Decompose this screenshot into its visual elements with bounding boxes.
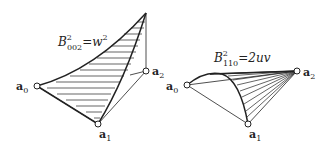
right-label-a1: a1 bbox=[249, 128, 261, 143]
right-fan-lines bbox=[210, 71, 297, 117]
bernstein-basis-diagram: a0 a1 a2 B2002=w2 bbox=[0, 0, 334, 148]
right-vertex-a2 bbox=[294, 68, 300, 74]
left-label-a2: a2 bbox=[152, 65, 164, 80]
right-vertex-a1 bbox=[245, 121, 251, 127]
right-label-a0: a0 bbox=[166, 80, 178, 95]
right-vertex-a0 bbox=[184, 82, 190, 88]
left-surface-outline bbox=[37, 13, 146, 124]
left-vertex-a0 bbox=[34, 83, 40, 89]
right-figure: a0 a1 a2 B2110=2uv bbox=[166, 49, 315, 143]
left-vertex-a1 bbox=[95, 121, 101, 127]
left-formula: B2002=w2 bbox=[57, 33, 108, 52]
left-figure: a0 a1 a2 B2002=w2 bbox=[16, 13, 164, 143]
right-label-a2: a2 bbox=[303, 66, 315, 81]
left-vertex-a2 bbox=[143, 68, 149, 74]
right-formula: B2110=2uv bbox=[213, 49, 271, 68]
left-label-a1: a1 bbox=[99, 128, 111, 143]
left-label-a0: a0 bbox=[16, 80, 28, 95]
